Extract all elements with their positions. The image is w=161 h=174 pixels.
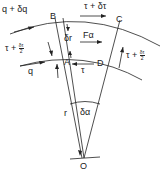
point-c-label: C bbox=[116, 15, 123, 24]
point-b-label: B bbox=[50, 12, 56, 21]
label-r: r bbox=[64, 109, 67, 118]
label-tau-plus-dtau: τ + δτ bbox=[84, 2, 106, 11]
point-a-label: A bbox=[64, 58, 70, 67]
label-delta-alpha: δα bbox=[80, 108, 90, 117]
label-tau-plus-half-left: τ + δτ2 bbox=[5, 43, 24, 54]
element-diagram: q + δq B τ + δτ C δr Fα τ + δτ2 τ + δτ2 … bbox=[0, 0, 161, 174]
label-delta-r: δr bbox=[64, 34, 72, 43]
fraction-half-dtau: δτ2 bbox=[19, 43, 24, 54]
diagram-lines bbox=[0, 0, 161, 174]
label-q: q bbox=[28, 67, 33, 76]
point-o-label: O bbox=[80, 162, 87, 171]
label-f-alpha: Fα bbox=[83, 31, 94, 40]
base-line bbox=[70, 157, 100, 159]
fraction-half-dtau-right: δτ2 bbox=[140, 50, 145, 61]
radial-line-c bbox=[84, 20, 120, 158]
point-d-label: D bbox=[97, 59, 104, 68]
label-tau-plus-half-right: τ + δτ2 bbox=[126, 50, 145, 61]
angle-arc bbox=[70, 102, 100, 105]
label-q-plus-dq: q + δq bbox=[2, 5, 27, 14]
label-tau: τ bbox=[81, 66, 85, 75]
